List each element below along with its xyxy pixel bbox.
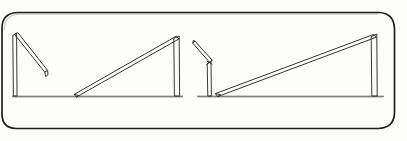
- sketch-canvas: [0, 0, 407, 141]
- hand-drawn-diagram: [0, 0, 407, 141]
- paper-background: [0, 0, 407, 141]
